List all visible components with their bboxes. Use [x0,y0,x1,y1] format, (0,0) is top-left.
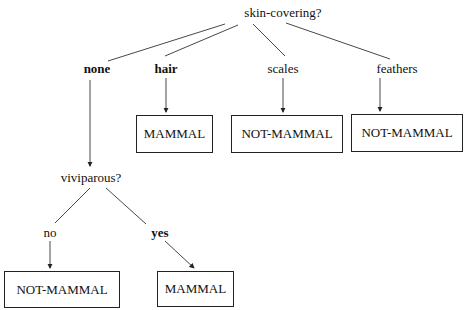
leaf-not-mammal-scales: NOT-MAMMAL [231,115,343,153]
tree-edges [0,0,470,310]
branch-none: none [84,61,111,77]
leaf-mammal-yes: MAMMAL [157,271,234,307]
leaf-not-mammal-no: NOT-MAMMAL [4,271,120,308]
branch-no: no [44,225,57,241]
leaf-mammal-hair: MAMMAL [136,115,213,153]
branch-scales: scales [267,61,298,77]
root-node-skin-covering: skin-covering? [244,5,321,21]
leaf-not-mammal-feathers: NOT-MAMMAL [351,114,463,152]
branch-feathers: feathers [376,61,417,77]
branch-yes: yes [151,225,168,241]
branch-hair: hair [154,61,177,77]
subnode-viviparous: viviparous? [61,170,122,186]
decision-tree-diagram: skin-covering? none hair scales feathers… [0,0,470,310]
